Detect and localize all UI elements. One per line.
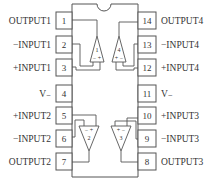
- pin-label: −INPUT1: [13, 40, 51, 50]
- opamp-1: [72, 20, 104, 70]
- opamp-signs: − +: [93, 55, 102, 61]
- opamp-number: 2: [88, 135, 91, 141]
- opamp-number: 4: [118, 47, 121, 53]
- pin-number: 7: [62, 157, 67, 167]
- opamp-signs: − +: [85, 127, 94, 133]
- opamp-signs: + −: [115, 55, 124, 61]
- pin-number: 2: [62, 40, 67, 50]
- pin-number: 11: [143, 89, 152, 99]
- pin-number: 9: [145, 134, 150, 144]
- pin-label: +INPUT4: [161, 63, 199, 73]
- pin-number: 10: [143, 111, 153, 121]
- pin-label: OUTPUT4: [161, 16, 203, 26]
- pin-label: OUTPUT3: [161, 157, 203, 167]
- opamp-signs: + −: [117, 127, 126, 133]
- ic-body: [72, 4, 138, 177]
- pin-number: 8: [145, 157, 150, 167]
- pin-number: 6: [62, 134, 67, 144]
- pin-label: +INPUT1: [13, 63, 51, 73]
- pin-label: OUTPUT2: [9, 157, 51, 167]
- pin-number: 13: [143, 40, 153, 50]
- pinout-diagram: 1 2 3 4 5 6 7 14 13 12 11 10 9 8 OUTPUT1…: [0, 0, 207, 188]
- pin-label: +INPUT2: [13, 111, 51, 121]
- opamp-number: 3: [120, 135, 123, 141]
- opamp-number: 1: [96, 47, 99, 53]
- pin-label: −INPUT2: [13, 134, 51, 144]
- pin-number: 12: [143, 63, 152, 73]
- pin-number: 4: [62, 89, 67, 99]
- pin-label: V₋: [161, 89, 173, 99]
- opamp-2: [72, 115, 99, 162]
- opamp-3: [111, 118, 138, 162]
- pin-label: −INPUT4: [161, 40, 199, 50]
- pin-number: 1: [62, 16, 67, 26]
- pin-number: 5: [62, 111, 67, 121]
- pin-label: OUTPUT1: [9, 16, 51, 26]
- pin-label: +INPUT3: [161, 111, 199, 121]
- pin-number: 3: [62, 63, 67, 73]
- pin-label: −INPUT3: [161, 134, 199, 144]
- pin-label: V₋: [39, 89, 51, 99]
- pin-number: 14: [143, 16, 153, 26]
- opamp-4: [112, 22, 138, 70]
